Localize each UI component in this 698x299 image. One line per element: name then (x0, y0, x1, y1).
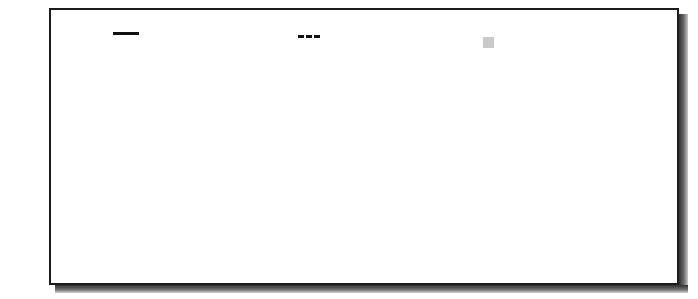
page-edge-fragment-middle (0, 156, 14, 176)
chart-canvas (51, 10, 681, 287)
chart-panel (49, 8, 679, 285)
page-edge-fragment-top (0, 14, 14, 34)
plot-area (51, 10, 681, 287)
